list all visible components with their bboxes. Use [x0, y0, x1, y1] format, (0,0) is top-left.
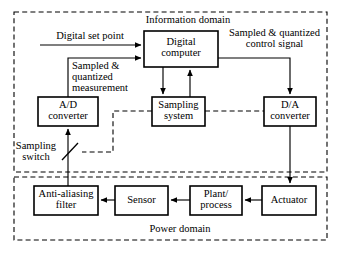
block-label-anti-aliasing-filter: Anti-aliasing filter	[33, 189, 99, 211]
signal-label-digital-set-point: Digital set point	[40, 31, 140, 42]
power-domain-label: Power domain	[130, 224, 230, 235]
block-diagram-canvas: Information domain Power domain Digital …	[0, 0, 339, 253]
block-label-digital-computer: Digital computer	[144, 37, 218, 59]
block-label-plant-process: Plant/ process	[190, 189, 242, 211]
line-computer-to-da-converter	[218, 58, 290, 94]
block-label-ad-converter: A/D converter	[38, 100, 98, 122]
block-label-sampling-system: Sampling system	[150, 100, 207, 122]
sampling-switch-blade	[62, 143, 78, 160]
block-label-actuator: Actuator	[262, 195, 316, 206]
signal-label-control-signal: Sampled & quantized control signal	[222, 28, 327, 50]
information-domain-label: Information domain	[128, 15, 248, 26]
block-label-da-converter: D/A converter	[263, 100, 317, 122]
signal-label-sampled-quantized-measurement: Sampled & quantized measurement	[72, 61, 162, 94]
block-label-sensor: Sensor	[115, 195, 168, 206]
signal-label-sampling-switch: Sampling switch	[10, 141, 62, 163]
